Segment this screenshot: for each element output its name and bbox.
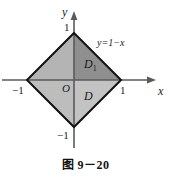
plot-area: y x 1 −1 −1 1 O y=1−x D1 D — [0, 0, 171, 152]
figure-caption: 图 9－20 — [0, 155, 171, 173]
region-label-d1-subscript: 1 — [93, 64, 97, 73]
region-label-d1-base: D — [84, 57, 93, 71]
x-axis-label: x — [158, 85, 163, 97]
y-axis-tick-label-negative-one: −1 — [57, 130, 69, 141]
y-axis-tick-label-positive-one: 1 — [64, 22, 70, 33]
region-label-d1: D1 — [84, 58, 97, 73]
region-label-d: D — [84, 90, 93, 102]
diagram-svg — [0, 0, 171, 152]
line-equation-label: y=1−x — [97, 38, 124, 48]
x-axis-tick-label-positive-one: 1 — [120, 85, 126, 96]
y-axis-label: y — [62, 6, 67, 18]
figure-container: y x 1 −1 −1 1 O y=1−x D1 D 图 9－20 — [0, 0, 171, 179]
x-axis-arrowhead — [147, 77, 156, 84]
y-axis-arrowhead — [71, 11, 78, 20]
x-axis-tick-label-negative-one: −1 — [12, 85, 24, 96]
origin-label: O — [62, 83, 70, 94]
